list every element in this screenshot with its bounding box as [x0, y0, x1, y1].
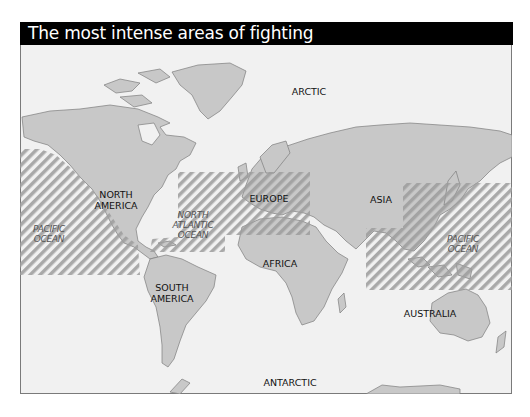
label-pacific-west-line1: PACIFIC	[33, 224, 65, 234]
label-pacific-west-line2: OCEAN	[33, 234, 65, 244]
title-bar: The most intense areas of fighting	[20, 22, 513, 45]
south-america	[144, 255, 216, 367]
label-australia: AUSTRALIA	[404, 308, 457, 319]
label-pacific-ocean-west: PACIFIC OCEAN	[33, 224, 65, 244]
map-title: The most intense areas of fighting	[28, 23, 313, 43]
label-africa: AFRICA	[263, 258, 298, 269]
label-pacific-east-line1: PACIFIC	[447, 234, 479, 244]
label-north-america: NORTH AMERICA	[94, 189, 137, 211]
label-asia: ASIA	[370, 194, 392, 205]
label-north-america-line1: NORTH	[94, 189, 137, 200]
label-south-america-line2: AMERICA	[150, 293, 193, 304]
label-north-america-line2: AMERICA	[94, 200, 137, 211]
label-pacific-ocean-east: PACIFIC OCEAN	[447, 234, 479, 254]
label-atlantic-line2: ATLANTIC	[173, 220, 214, 230]
label-south-america: SOUTH AMERICA	[150, 282, 193, 304]
label-north-atlantic-ocean: NORTH ATLANTIC OCEAN	[173, 210, 214, 240]
greenland	[172, 63, 246, 119]
label-south-america-line1: SOUTH	[150, 282, 193, 293]
label-pacific-east-line2: OCEAN	[447, 244, 479, 254]
label-atlantic-line3: OCEAN	[173, 230, 214, 240]
label-europe: EUROPE	[250, 193, 289, 204]
label-arctic: ARCTIC	[292, 86, 327, 97]
label-antarctic: ANTARCTIC	[263, 377, 316, 388]
world-map	[20, 45, 512, 394]
label-atlantic-line1: NORTH	[173, 210, 214, 220]
